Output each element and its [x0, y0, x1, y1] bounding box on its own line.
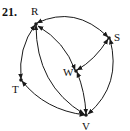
node-w [74, 69, 78, 73]
directed-graph-diagram [0, 0, 130, 131]
edge-r-s [37, 17, 108, 37]
edge-w-v [77, 72, 86, 114]
edge-s-w [77, 39, 108, 70]
node-r [34, 22, 38, 26]
edge-r-w [38, 26, 75, 70]
node-t [19, 78, 23, 82]
node-s [107, 36, 111, 40]
edge-r-t [21, 25, 35, 79]
node-v [84, 113, 88, 117]
